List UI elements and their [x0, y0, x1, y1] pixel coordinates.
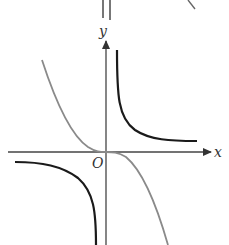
previous-figure-fragment — [103, 0, 195, 20]
graph-canvas: y x O — [0, 0, 229, 245]
hyperbola-branch-upper-right — [117, 50, 197, 141]
origin-label: O — [92, 155, 104, 171]
hyperbola-branch-lower-left — [15, 162, 96, 245]
x-axis-label: x — [214, 144, 222, 160]
y-axis-label: y — [98, 23, 108, 39]
